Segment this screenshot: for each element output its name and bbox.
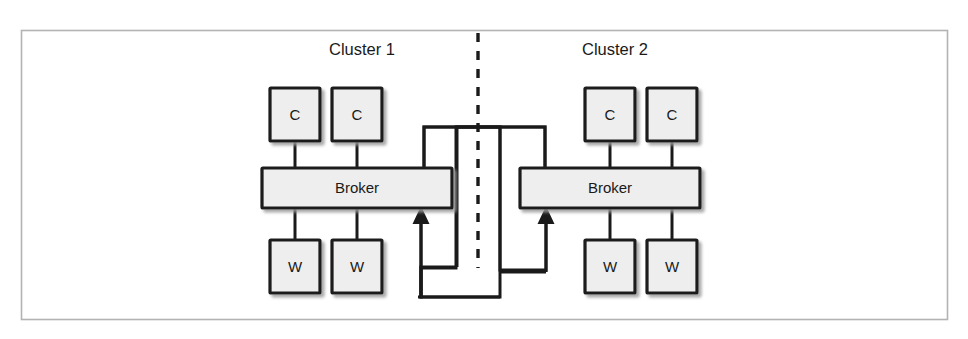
bridge-arrows	[413, 206, 555, 297]
cluster-1-worker-1-label: W	[288, 258, 303, 275]
bridge-lower-left	[421, 267, 500, 297]
cluster-2-client-2-label: C	[667, 106, 678, 123]
cluster-1-title: Cluster 1	[329, 40, 395, 58]
cluster-1-client-1: C	[270, 88, 320, 141]
cluster-1-worker-2-label: W	[350, 258, 365, 275]
cluster-1-worker-2: W	[332, 240, 382, 293]
cluster-2-worker-2-label: W	[665, 258, 680, 275]
cluster-1-client-1-label: C	[290, 106, 301, 123]
cluster-2-client-1: C	[585, 88, 635, 141]
cluster-1-worker-1: W	[270, 240, 320, 293]
cluster-2-client-2: C	[647, 88, 697, 141]
cluster-2-worker-1: W	[585, 240, 635, 293]
cluster-2-client-1-label: C	[605, 106, 616, 123]
diagram-canvas: Cluster 1 Cluster 2 C C Broker W W C	[0, 0, 968, 339]
bridge-path-c2-to-c1-tail	[421, 216, 500, 297]
cluster-2-broker-label: Broker	[588, 179, 632, 196]
cluster-2-worker-1-label: W	[603, 258, 618, 275]
cluster-1-broker: Broker	[262, 168, 452, 208]
figure-frame	[22, 31, 948, 320]
cluster-1-broker-label: Broker	[335, 179, 379, 196]
cluster-1-client-2: C	[332, 88, 382, 141]
cluster-2-worker-2: W	[647, 240, 697, 293]
diagram-svg: Cluster 1 Cluster 2 C C Broker W W C	[0, 0, 968, 339]
cluster-1-client-2-label: C	[352, 106, 363, 123]
cluster-2-broker: Broker	[520, 168, 700, 208]
cluster-2-title: Cluster 2	[582, 40, 648, 58]
